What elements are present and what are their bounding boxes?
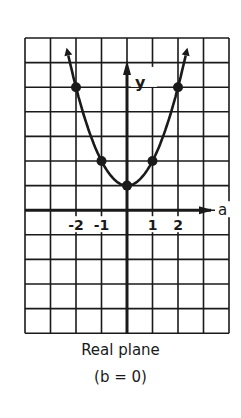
data-point [148,156,158,166]
data-point [173,82,183,92]
tick-label: 2 [173,217,183,233]
data-point [71,82,81,92]
data-point [97,156,107,166]
tick-label: 1 [148,217,158,233]
x-axis-label: a [218,201,227,219]
data-point [122,181,132,191]
y-axis-label: y [135,73,146,92]
caption-subtitle: (b = 0) [0,368,241,386]
curve-arrow-icon [182,48,190,57]
tick-label: -1 [94,217,110,233]
tick-label: -2 [68,217,84,233]
curve-arrow-icon [64,48,72,57]
label-mask [52,216,120,232]
x-axis-arrow-icon [199,206,213,214]
caption-title: Real plane [0,341,241,359]
